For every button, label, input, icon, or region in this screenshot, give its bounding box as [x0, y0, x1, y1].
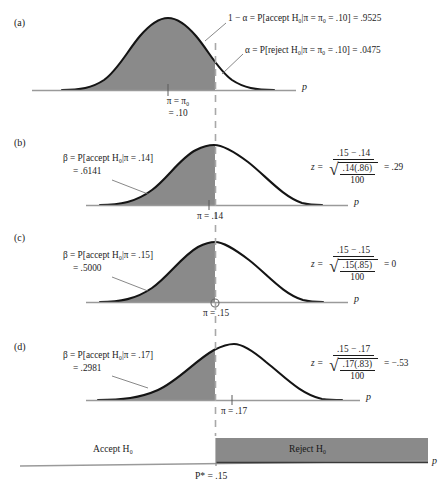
- panel-b-mean-label: π = .14: [184, 210, 236, 222]
- panel-d-z-denominator: √ .17(.83) 100: [327, 356, 380, 382]
- panel-c-beta-annotation: β = P[accept H₀|π = .15] = .5000: [63, 249, 153, 274]
- decision-bar-group: [20, 438, 428, 466]
- panel-b-axis-label: p: [354, 196, 359, 207]
- panel-a-mean-label-line2: = .10: [168, 108, 187, 118]
- panel-d-beta-line1: β = P[accept H₀|π = .17]: [63, 350, 153, 360]
- panel-c-axis-label: p: [354, 293, 359, 304]
- panel-c-radicand-num: .15(.85): [340, 261, 375, 272]
- panel-c-mean-label: π = .15: [190, 307, 242, 319]
- panel-d-radical: √ .17(.83) 100: [329, 357, 378, 382]
- panel-d-radicand-num: .17(.83): [340, 360, 375, 371]
- panel-c-z-numerator: .15 − .15: [333, 245, 374, 257]
- panel-b-beta-annotation: β = P[accept H₀|π = .14] = .6141: [63, 152, 153, 177]
- panel-c-leader-beta: [112, 277, 148, 291]
- panel-c-z-denominator: √ .15(.85) 100: [327, 257, 380, 283]
- panel-c-radicand-den: 100: [350, 272, 364, 282]
- panel-b-radical: √ .14(.86) 100: [329, 161, 378, 186]
- panel-d-leader-beta: [112, 376, 148, 388]
- panel-a-leader-power: [205, 23, 226, 41]
- panel-c-radical: √ .15(.85) 100: [329, 258, 378, 283]
- panel-label-b: (b): [14, 137, 26, 148]
- panel-d-z-result: = −.53: [384, 358, 408, 368]
- panel-c-z-formula: z = .15 − .15 √ .15(.85) 100 = 0: [311, 245, 396, 283]
- panel-c-beta-line1: β = P[accept H₀|π = .15]: [63, 250, 153, 260]
- panel-a-alpha-annotation: α = P[reject H₀|π = π₀ = .10] = .0475: [245, 44, 381, 57]
- critical-value-label: P* = .15: [195, 470, 227, 481]
- accept-region-label: Accept H₀: [93, 443, 133, 454]
- panel-c-z-result: = 0: [384, 259, 396, 269]
- panel-d-mean-label: π = .17: [208, 405, 260, 417]
- panel-d-z-fraction: .15 − .17 √ .17(.83) 100: [327, 344, 380, 382]
- panel-d-beta-line2: = .2981: [63, 362, 153, 375]
- panel-d-axis-label: p: [366, 391, 371, 402]
- panel-label-d: (d): [14, 341, 26, 352]
- panel-b-leader-beta: [112, 180, 148, 194]
- panel-b-radicand-den: 100: [350, 175, 364, 185]
- panel-d-z-numerator: .15 − .17: [333, 344, 374, 356]
- panel-a-axis-label: p: [302, 81, 307, 92]
- panel-a-mean-label: π = π₀ = .10: [148, 95, 208, 119]
- panel-b-z-lhs: z =: [311, 162, 323, 172]
- panel-b-z-result: = .29: [384, 162, 403, 172]
- panel-d-z-formula: z = .15 − .17 √ .17(.83) 100 = −.53: [311, 344, 408, 382]
- reject-region-label: Reject H₀: [289, 443, 326, 454]
- panel-b-beta-line1: β = P[accept H₀|π = .14]: [63, 153, 153, 163]
- panel-d-beta-annotation: β = P[accept H₀|π = .17] = .2981: [63, 349, 153, 374]
- panel-d-radicand-den: 100: [350, 371, 364, 381]
- panel-b-z-denominator: √ .14(.86) 100: [327, 160, 380, 186]
- panel-b-beta-line2: = .6141: [63, 165, 153, 178]
- panel-a-curve-group: [32, 18, 296, 96]
- panel-b-z-numerator: .15 − .14: [333, 148, 374, 160]
- panel-b-z-formula: z = .15 − .14 √ .14(.86) 100 = .29: [311, 148, 403, 186]
- panel-a-shaded-area: [62, 18, 274, 90]
- panel-a-leader-alpha: [222, 54, 243, 74]
- panel-c-beta-line2: = .5000: [63, 262, 153, 275]
- decision-bar-axis-label: p: [432, 455, 437, 466]
- panel-a-mean-label-line1: π = π₀: [167, 96, 190, 106]
- panel-label-a: (a): [14, 17, 25, 28]
- panel-d-z-lhs: z =: [311, 358, 323, 368]
- panel-b-radicand-num: .14(.86): [340, 164, 375, 175]
- hypothesis-test-figure: (a) (b) (c) (d) 1 − α = P[accept H₀|π = …: [0, 0, 446, 490]
- panel-label-c: (c): [14, 232, 25, 243]
- panel-c-z-lhs: z =: [311, 259, 323, 269]
- panel-a-power-annotation: 1 − α = P[accept H₀|π = π₀ = .10] = .952…: [228, 12, 381, 25]
- panel-b-z-fraction: .15 − .14 √ .14(.86) 100: [327, 148, 380, 186]
- panel-c-z-fraction: .15 − .15 √ .15(.85) 100: [327, 245, 380, 283]
